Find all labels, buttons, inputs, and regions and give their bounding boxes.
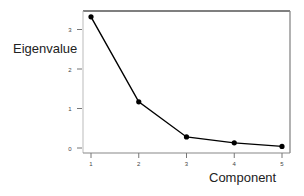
data-point-marker: [232, 140, 237, 145]
x-axis-ticks: 12345: [89, 153, 284, 167]
x-tick-label: 2: [137, 161, 141, 167]
x-tick-label: 1: [89, 161, 93, 167]
y-axis-label: Eigenvalue: [13, 41, 77, 56]
y-tick-label: 2: [68, 67, 72, 73]
eigenvalue-line: [91, 17, 282, 147]
x-tick-label: 3: [185, 161, 189, 167]
y-tick-label: 1: [68, 106, 72, 112]
data-point-marker: [88, 14, 93, 19]
plot-frame: [83, 11, 290, 153]
eigenvalue-series: [88, 14, 284, 149]
data-point-marker: [136, 99, 141, 104]
y-tick-label: 0: [68, 146, 72, 152]
x-tick-label: 5: [280, 161, 284, 167]
scree-plot: 0123 12345: [0, 0, 304, 196]
x-tick-label: 4: [233, 161, 237, 167]
y-tick-label: 3: [68, 27, 72, 33]
x-axis-label: Component: [209, 170, 276, 185]
data-point-marker: [279, 144, 284, 149]
data-point-marker: [184, 134, 189, 139]
